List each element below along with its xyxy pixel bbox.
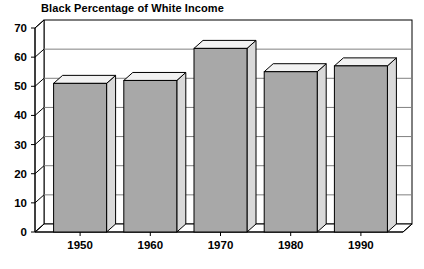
bar-top-face bbox=[194, 40, 256, 48]
y-tick-label: 70 bbox=[14, 22, 27, 34]
x-tick-label: 1960 bbox=[138, 239, 164, 251]
x-tick-label: 1980 bbox=[278, 239, 304, 251]
bar-front-face bbox=[54, 83, 107, 232]
bar-side-face bbox=[387, 58, 396, 232]
bar-top-face bbox=[264, 64, 326, 72]
y-tick-label: 20 bbox=[14, 168, 27, 180]
x-tick-label: 1970 bbox=[208, 239, 234, 251]
x-tick-label: 1950 bbox=[67, 239, 93, 251]
bar-side-face bbox=[107, 75, 116, 232]
bar bbox=[264, 64, 326, 232]
x-tick-label: 1990 bbox=[348, 239, 374, 251]
bar bbox=[334, 58, 396, 232]
y-tick-label: 40 bbox=[14, 109, 27, 121]
bar-front-face bbox=[194, 48, 247, 232]
bar bbox=[54, 75, 116, 232]
y-axis-tick-labels: 010203040506070 bbox=[14, 22, 27, 238]
y-tick-label: 60 bbox=[14, 51, 27, 63]
bar-top-face bbox=[334, 58, 396, 66]
bar-front-face bbox=[334, 66, 387, 232]
bar bbox=[124, 72, 186, 232]
bar bbox=[194, 40, 256, 232]
y-tick-label: 0 bbox=[21, 226, 27, 238]
bar-chart: Black Percentage of White Income 0102030… bbox=[0, 0, 424, 269]
x-axis-tick-labels: 19501960197019801990 bbox=[67, 232, 373, 251]
left-wall bbox=[35, 20, 44, 232]
bar-side-face bbox=[177, 72, 186, 232]
bar-front-face bbox=[264, 72, 317, 232]
bar-top-face bbox=[124, 72, 186, 80]
plot-area: 010203040506070 19501960197019801990 bbox=[0, 0, 424, 269]
bar-top-face bbox=[54, 75, 116, 83]
bar-front-face bbox=[124, 80, 177, 232]
y-tick-label: 50 bbox=[14, 80, 27, 92]
bar-side-face bbox=[247, 40, 256, 232]
y-tick-label: 10 bbox=[14, 197, 27, 209]
y-tick-label: 30 bbox=[14, 139, 27, 151]
bar-side-face bbox=[317, 64, 326, 232]
